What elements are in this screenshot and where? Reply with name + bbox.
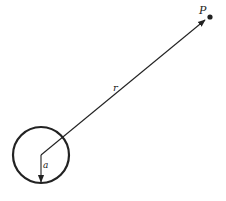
point-p-dot xyxy=(207,14,212,19)
circle-point-diagram: P r a xyxy=(0,0,226,201)
label-a: a xyxy=(43,160,48,170)
radius-vector-r xyxy=(41,20,205,155)
label-p: P xyxy=(198,4,207,17)
